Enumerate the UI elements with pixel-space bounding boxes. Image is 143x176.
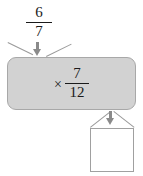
answer-box[interactable] xyxy=(90,128,134,172)
input-fraction-numerator: 6 xyxy=(26,5,52,21)
output-arrow-head xyxy=(106,118,114,125)
operation-fraction-numerator: 7 xyxy=(65,66,89,82)
hopper-line-right xyxy=(46,44,72,57)
output-arrow-down-icon xyxy=(106,111,115,125)
multiplication-sign-icon: × xyxy=(54,78,62,92)
machine-operation: × 7 12 xyxy=(8,58,135,109)
machine-body: × 7 12 xyxy=(7,57,136,110)
operation-fraction: 7 12 xyxy=(65,66,89,100)
answer-value xyxy=(91,129,133,171)
hopper-line-left xyxy=(8,42,34,55)
chute-line-right xyxy=(113,111,134,128)
input-arrow-down-icon xyxy=(33,42,42,56)
input-fraction: 6 7 xyxy=(26,5,52,39)
operation-fraction-denominator: 12 xyxy=(65,85,89,101)
input-arrow-head xyxy=(33,49,41,56)
input-fraction-denominator: 7 xyxy=(26,24,52,40)
function-machine-diagram: 6 7 × 7 12 xyxy=(0,0,143,176)
